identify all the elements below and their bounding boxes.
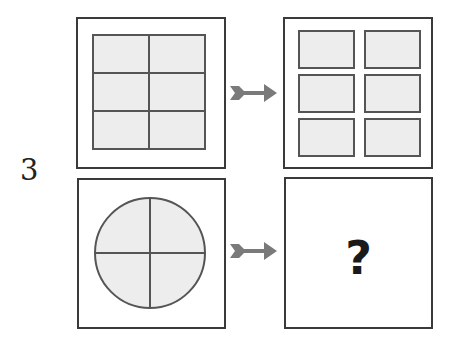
- rect-cell: [298, 118, 355, 157]
- arrow-right-icon: [230, 242, 278, 260]
- arrow-right-icon: [230, 84, 278, 102]
- top-right-panel: [283, 17, 433, 169]
- grid-figure: [76, 17, 226, 169]
- bottom-left-panel: [77, 178, 226, 329]
- top-left-panel: [76, 17, 226, 169]
- rect-cell: [364, 74, 421, 113]
- answer-panel: ?: [284, 177, 433, 329]
- rect-cell: [364, 118, 421, 157]
- rect-cell: [298, 30, 355, 69]
- puzzle-number: 3: [20, 156, 38, 185]
- circle-figure: [77, 178, 226, 329]
- rect-cell: [298, 74, 355, 113]
- rect-cell: [364, 30, 421, 69]
- question-mark: ?: [286, 235, 431, 281]
